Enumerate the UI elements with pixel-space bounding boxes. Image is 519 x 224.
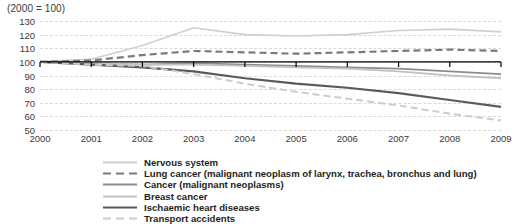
legend-swatch-icon — [103, 213, 137, 224]
legend-label: Lung cancer (malignant neoplasm of laryn… — [144, 168, 477, 179]
x-axis-tick-label: 2001 — [81, 133, 102, 144]
legend-label: Breast cancer — [144, 191, 207, 202]
legend-item[interactable]: Nervous system — [103, 157, 513, 168]
x-axis-tick-label: 2004 — [234, 133, 255, 144]
y-axis-tick-label: 110 — [5, 43, 35, 54]
y-axis-tick-label: 100 — [5, 56, 35, 67]
series-line — [40, 50, 501, 62]
x-axis-tick-label: 2009 — [490, 133, 511, 144]
legend-swatch-icon — [103, 168, 137, 179]
legend-item[interactable]: Breast cancer — [103, 191, 513, 202]
legend-item[interactable]: Ischaemic heart diseases — [103, 202, 513, 213]
plot-area: 1301201101009080706050 20002001200220032… — [40, 21, 501, 130]
y-axis-tick-label: 130 — [5, 16, 35, 27]
legend-label: Transport accidents — [144, 213, 235, 224]
series-layer — [40, 21, 501, 130]
y-axis-tick-label: 70 — [5, 97, 35, 108]
chart-container: (2000 = 100) 1301201101009080706050 2000… — [0, 0, 519, 224]
legend-item[interactable]: Cancer (malignant neoplasms) — [103, 179, 513, 190]
chart-legend: Nervous systemLung cancer (malignant neo… — [103, 157, 513, 224]
gridline — [40, 130, 501, 131]
legend-label: Cancer (malignant neoplasms) — [144, 179, 284, 190]
legend-item[interactable]: Transport accidents — [103, 213, 513, 224]
legend-item[interactable]: Lung cancer (malignant neoplasm of laryn… — [103, 168, 513, 179]
x-axis-tick-label: 2002 — [132, 133, 153, 144]
x-axis-tick-label: 2003 — [183, 133, 204, 144]
series-line — [40, 28, 501, 62]
x-axis-tick-label: 2006 — [337, 133, 358, 144]
chart-title: (2000 = 100) — [7, 3, 65, 14]
y-axis-tick-label: 120 — [5, 29, 35, 40]
x-axis-tick-label: 2007 — [388, 133, 409, 144]
x-axis-tick-label: 2005 — [286, 133, 307, 144]
x-axis-tick-label: 2000 — [29, 133, 50, 144]
x-axis-tick-label: 2008 — [439, 133, 460, 144]
legend-label: Ischaemic heart diseases — [144, 202, 260, 213]
legend-swatch-icon — [103, 157, 137, 168]
y-axis-tick-label: 80 — [5, 84, 35, 95]
legend-swatch-icon — [103, 179, 137, 190]
legend-swatch-icon — [103, 202, 137, 213]
legend-swatch-icon — [103, 191, 137, 202]
y-axis-tick-label: 90 — [5, 70, 35, 81]
y-axis-tick-label: 60 — [5, 111, 35, 122]
series-line — [40, 62, 501, 107]
legend-label: Nervous system — [144, 157, 218, 168]
